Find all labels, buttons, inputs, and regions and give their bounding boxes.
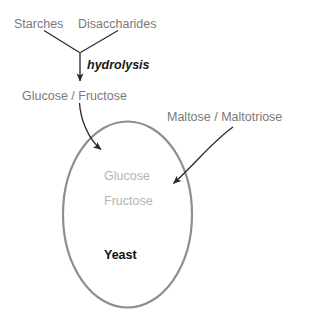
maltose-maltotriose-uptake-arrow — [174, 127, 234, 184]
hydrolysis-yeast-diagram: Starches Disaccharides hydrolysis Glucos… — [0, 0, 311, 324]
starches-to-junction-arrow — [44, 31, 80, 53]
yeast-cell-ellipse — [63, 122, 192, 308]
label-yeast: Yeast — [104, 249, 137, 262]
label-fructose-inner: Fructose — [104, 195, 153, 208]
label-glucose-inner: Glucose — [104, 170, 150, 183]
label-starches: Starches — [14, 18, 63, 31]
disaccharides-to-junction-arrow — [81, 31, 119, 53]
diagram-canvas — [0, 0, 311, 324]
glucose-fructose-uptake-arrow — [80, 103, 102, 150]
label-disaccharides: Disaccharides — [78, 18, 157, 31]
label-maltose-maltotriose: Maltose / Maltotriose — [167, 111, 282, 124]
label-hydrolysis: hydrolysis — [87, 59, 150, 72]
label-glucose-fructose-outer: Glucose / Fructose — [22, 90, 127, 103]
